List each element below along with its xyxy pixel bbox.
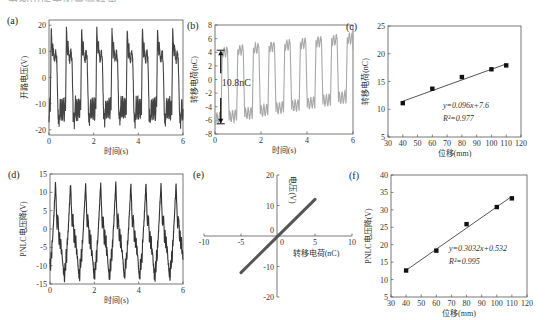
panel-f-ytick: 15 <box>380 258 388 267</box>
panel-d-xtick: 4 <box>137 286 141 295</box>
panel-d-ytick: 0 <box>43 225 47 234</box>
panel-f-xtick: 100 <box>491 299 503 308</box>
panel-d-ytick: -5 <box>40 243 47 252</box>
panel-b-ytick: -6 <box>205 116 212 125</box>
panel-a-open-circuit-voltage: 0246-20-1001020时间(s)开路电压(V)(a) <box>7 15 185 156</box>
panel-a-xtick: 0 <box>47 137 51 146</box>
panel-f-xtick: 30 <box>387 299 395 308</box>
panel-b-ytick: -8 <box>205 130 212 139</box>
panel-a-xlabel: 时间(s) <box>104 146 129 156</box>
panel-e-xtick: 5 <box>313 238 317 247</box>
panel-f-ytick: 20 <box>380 241 388 250</box>
panel-e-xtick: -5 <box>238 238 245 247</box>
panel-c-xtick: 90 <box>473 139 481 148</box>
panel-e-ytick: 20 <box>266 171 274 180</box>
panel-f-ytick: 35 <box>380 188 388 197</box>
panel-b-xtick: 4 <box>305 136 309 145</box>
panel-a-ytick: 20 <box>38 21 46 30</box>
panel-a-xtick: 6 <box>181 137 185 146</box>
panel-c-xtick: 30 <box>384 139 392 148</box>
panel-d-pnlc-voltage: 0246-15-10-5051015时间(s)PNLC电压降(V)(d) <box>8 169 185 305</box>
panel-b-ytick: 4 <box>208 48 212 57</box>
panel-f-xtick: 50 <box>417 299 425 308</box>
panel-f-equation: y=0.3032x+0.532 <box>448 244 507 253</box>
panel-e-ytick: 0 <box>270 226 274 235</box>
panel-b-ytick: 8 <box>208 21 212 30</box>
panel-f-xtick: 80 <box>463 299 471 308</box>
panel-f-xtick: 90 <box>478 299 486 308</box>
panel-c-xtick: 100 <box>485 139 497 148</box>
panel-c-r-squared: R²=0.977 <box>442 114 475 123</box>
panel-c-xtick: 120 <box>515 139 527 148</box>
panel-f-label: (f) <box>349 170 359 182</box>
panel-c-xtick: 80 <box>458 139 466 148</box>
panel-f-ytick: 5 <box>384 293 388 302</box>
panel-f-data-point <box>404 268 408 272</box>
panel-f-ytick: 25 <box>380 223 388 232</box>
panel-a-ytick: -10 <box>35 100 46 109</box>
panel-d-series <box>50 182 183 283</box>
panel-e-ytick: 10 <box>266 202 274 211</box>
panel-c-xtick: 70 <box>443 139 451 148</box>
panel-a-frame <box>49 20 183 135</box>
panel-e-xlabel: 转移电荷(nC) <box>293 248 340 258</box>
panel-f-pnlc-vs-displacement: 30405060708090100110120510152025303540位移… <box>349 170 533 318</box>
panel-f-data-point <box>495 205 499 209</box>
panel-c-xtick: 110 <box>500 139 512 148</box>
panel-e-xtick: 0 <box>280 238 284 247</box>
panel-a-ylabel: 开路电压(V) <box>19 56 29 99</box>
panel-c-xtick: 60 <box>428 139 436 148</box>
panel-f-xtick: 60 <box>432 299 440 308</box>
panel-e-ytick: -10 <box>263 263 274 272</box>
panel-d-ytick: -10 <box>36 262 47 271</box>
panel-e-xtick: -10 <box>199 238 210 247</box>
panel-f-data-point <box>434 248 438 252</box>
panel-d-ytick: 5 <box>43 207 47 216</box>
panel-d-ylabel: PNLC电压降(V) <box>18 201 28 257</box>
panel-a-xtick: 4 <box>136 137 140 146</box>
panel-a-ytick: 10 <box>38 47 46 56</box>
panel-d-ytick: -15 <box>36 280 47 289</box>
panel-c-charge-vs-displacement: 30405060708090100110120510152025位移(mm)转移… <box>346 21 527 158</box>
panel-f-data-point <box>510 196 514 200</box>
panel-d-xlabel: 时间(s) <box>104 295 129 305</box>
panel-f-xlabel: 位移(mm) <box>442 308 476 318</box>
panel-c-ylabel: 转移电荷(nC) <box>360 58 370 105</box>
panel-b-ytick: 0 <box>208 76 212 85</box>
panel-c-data-point <box>430 87 434 91</box>
panel-e-xtick: 10 <box>348 238 356 247</box>
panel-f-xtick: 70 <box>447 299 455 308</box>
panel-d-label: (d) <box>8 169 20 181</box>
panel-e-voltage-vs-charge: -10-50510-20-1010200转移电荷(nC)电压(V)(e) <box>193 169 356 302</box>
panel-f-frame <box>391 175 527 297</box>
panel-c-ytick: 10 <box>377 105 385 114</box>
panel-c-data-point <box>489 67 493 71</box>
panel-b-transferred-charge: 0246-8-6-4-202468时间(s)转移电荷(nC)(b)10.8nC <box>187 20 355 155</box>
panel-c-equation: y=0.096x+7.6 <box>442 101 489 110</box>
panel-c-ytick: 25 <box>377 22 385 31</box>
panel-b-xtick: 6 <box>351 136 355 145</box>
panel-f-ytick: 40 <box>380 171 388 180</box>
panel-f-xtick: 120 <box>521 299 533 308</box>
panel-d-ytick: 15 <box>39 170 47 179</box>
panel-c-data-point <box>504 63 508 67</box>
panel-a-label: (a) <box>7 15 18 27</box>
panel-d-xtick: 6 <box>181 286 185 295</box>
panel-b-ytick: 6 <box>208 35 212 44</box>
panel-b-ytick: 2 <box>208 62 212 71</box>
panel-c-label: (c) <box>346 21 357 33</box>
panel-f-xtick: 110 <box>506 299 518 308</box>
panel-b-xtick: 0 <box>213 136 217 145</box>
panel-c-xlabel: 位移(mm) <box>438 148 472 158</box>
panel-f-r-squared: R²=0.995 <box>448 257 480 266</box>
panel-d-ytick: 10 <box>39 188 47 197</box>
panel-d-xtick: 0 <box>48 286 52 295</box>
panel-f-xtick: 40 <box>402 299 410 308</box>
panel-d-xtick: 2 <box>92 286 96 295</box>
figure-canvas: 0246-20-1001020时间(s)开路电压(V)(a) 0246-8-6-… <box>0 0 548 320</box>
panel-f-ytick: 10 <box>380 276 388 285</box>
panel-c-xtick: 40 <box>399 139 407 148</box>
panel-c-data-point <box>401 101 405 105</box>
panel-c-ytick: 20 <box>377 50 385 59</box>
panel-f-data-point <box>464 222 468 226</box>
